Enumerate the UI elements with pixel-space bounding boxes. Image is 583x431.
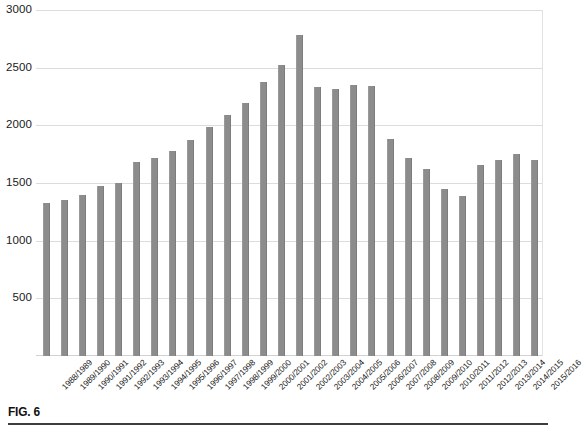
- bar: [513, 154, 520, 356]
- bar: [115, 183, 122, 356]
- bar: [405, 158, 412, 356]
- bar: [151, 158, 158, 356]
- bar: [387, 139, 394, 356]
- bar: [314, 87, 321, 356]
- bar: [97, 186, 104, 356]
- bar: [79, 195, 86, 356]
- y-tick-label: 2500: [0, 62, 32, 74]
- bar: [477, 165, 484, 356]
- bar: [169, 151, 176, 356]
- bar: [368, 86, 375, 356]
- bar: [441, 189, 448, 356]
- y-tick-label: 500: [0, 292, 32, 304]
- figure-caption-block: FIG. 6: [0, 404, 556, 431]
- y-tick-label: 2000: [0, 119, 32, 131]
- bar: [278, 65, 285, 356]
- bar: [531, 160, 538, 356]
- y-axis: 30002500200015001000500: [0, 10, 32, 356]
- bars-layer: [36, 10, 543, 356]
- bar: [61, 200, 68, 356]
- bar: [423, 169, 430, 356]
- x-axis: 1988/19891989/19901990/19911991/19921992…: [36, 356, 543, 402]
- bar-chart: 30002500200015001000500 1988/19891989/19…: [0, 0, 556, 400]
- bar: [459, 196, 466, 356]
- figure-rule: [8, 423, 548, 425]
- bar: [332, 89, 339, 356]
- bar: [206, 127, 213, 357]
- y-tick-label: 1500: [0, 177, 32, 189]
- bar: [495, 160, 502, 356]
- bar: [133, 162, 140, 356]
- bar: [296, 35, 303, 356]
- y-tick-label: 1000: [0, 235, 32, 247]
- bar: [187, 140, 194, 356]
- bar: [242, 103, 249, 356]
- bar: [43, 203, 50, 356]
- figure-label: FIG. 6: [8, 404, 40, 419]
- bar: [260, 82, 267, 356]
- y-tick-label: 3000: [0, 4, 32, 16]
- bar: [350, 85, 357, 356]
- bar: [224, 115, 231, 356]
